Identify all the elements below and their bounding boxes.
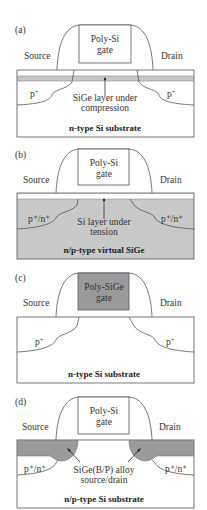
panel-a: (a) Source Drain Poly-Si gate p+ p+ SiGe… <box>15 25 194 137</box>
panel-b-strained-si-layer <box>17 193 193 199</box>
panel-d-annotation-2: source/drain <box>81 475 128 485</box>
panel-d-left-region-label: p⁺/n⁺ <box>24 464 46 474</box>
panel-a-gate <box>79 25 131 63</box>
panel-c-gate-label-1: Poly-SiGe <box>84 282 124 292</box>
panel-b-substrate-label: n/p-type virtual SiGe <box>63 245 144 255</box>
panel-a-source-label: Source <box>24 51 50 61</box>
panel-c-gate-label-2: gate <box>96 293 112 303</box>
panel-b-left-region-label: p⁺/n⁺ <box>28 214 50 224</box>
panel-a-arrow-head <box>104 78 106 80</box>
panel-d: (d) Source Drain Poly-Si gate p⁺/n⁺ p⁺/n… <box>15 397 194 508</box>
panel-d-right-region-label: p⁺/n⁺ <box>165 464 187 474</box>
panel-b-gate-label-2: gate <box>96 169 112 179</box>
panel-c-id: (c) <box>15 273 26 284</box>
panel-b-arrow-head <box>103 199 105 201</box>
panel-b-gate-label-1: Poly-Si <box>90 158 119 168</box>
panel-b-annotation-1: Si layer under <box>77 217 131 227</box>
panel-d-gate-label-2: gate <box>96 417 112 427</box>
panel-a-id: (a) <box>15 25 26 36</box>
panel-b-id: (b) <box>15 150 26 161</box>
panel-d-id: (d) <box>15 397 26 408</box>
panel-b-right-region-label: p⁺/n⁺ <box>161 214 183 224</box>
panel-b-annotation-2: tension <box>90 227 118 237</box>
panel-c-substrate-label: n-type Si substrate <box>68 369 140 379</box>
panel-a-gate-label-2: gate <box>97 45 113 55</box>
panel-b: (b) Source Drain Poly-Si gate p⁺/n⁺ p⁺/n… <box>15 149 194 259</box>
panel-a-annotation-2: compression <box>81 103 129 113</box>
panel-a-drain-label: Drain <box>161 51 183 61</box>
panel-b-source-label: Source <box>23 175 49 185</box>
panel-c: (c) Source Drain Poly-SiGe gate p+ p+ n-… <box>15 273 194 383</box>
panel-d-substrate-label: n/p-type Si substrate <box>64 494 144 504</box>
panel-d-gate-label-1: Poly-Si <box>90 406 119 416</box>
panel-d-source-label: Source <box>22 422 48 432</box>
panel-c-source-label: Source <box>23 298 49 308</box>
panel-a-gate-label-1: Poly-Si <box>91 34 120 44</box>
mosfet-strain-diagram: (a) Source Drain Poly-Si gate p+ p+ SiGe… <box>0 0 207 510</box>
panel-b-drain-label: Drain <box>160 175 182 185</box>
panel-a-substrate-label: n-type Si substrate <box>69 123 141 133</box>
panel-a-annotation-1: SiGe layer under <box>73 93 138 103</box>
panel-d-drain-label: Drain <box>159 422 181 432</box>
panel-c-drain-label: Drain <box>160 298 182 308</box>
